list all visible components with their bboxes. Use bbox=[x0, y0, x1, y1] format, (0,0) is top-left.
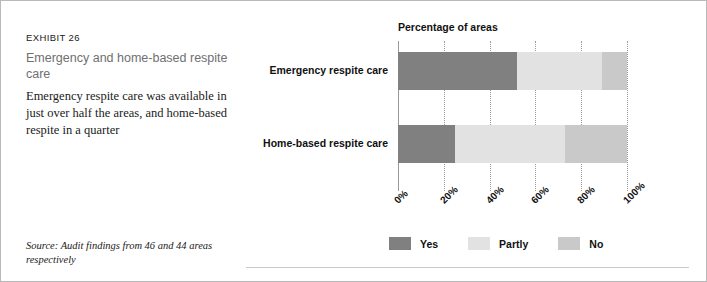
source-note: Source: Audit findings from 46 and 44 ar… bbox=[26, 239, 241, 267]
legend-swatch bbox=[468, 237, 490, 250]
legend-label: Partly bbox=[499, 238, 528, 250]
bar-segment-no bbox=[565, 125, 627, 163]
bar-segment-yes bbox=[398, 52, 517, 90]
frame-border-top bbox=[0, 0, 707, 1]
exhibit-title: Emergency and home-based respite care bbox=[26, 50, 236, 82]
bar-segment-partly bbox=[517, 52, 602, 90]
bar-segment-yes bbox=[398, 125, 455, 163]
legend-item: No bbox=[558, 237, 603, 250]
category-label: Emergency respite care bbox=[270, 64, 388, 76]
bottom-divider bbox=[246, 267, 689, 268]
stacked-bar bbox=[398, 125, 627, 163]
frame-border-left bbox=[0, 0, 1, 282]
exhibit-description: Emergency respite care was available in … bbox=[26, 88, 238, 139]
chart-title: Percentage of areas bbox=[398, 21, 498, 33]
legend-label: No bbox=[589, 238, 603, 250]
category-label: Home-based respite care bbox=[263, 137, 388, 149]
legend-swatch bbox=[389, 237, 411, 250]
chart-legend: YesPartlyNo bbox=[389, 237, 633, 250]
exhibit-page: EXHIBIT 26 Emergency and home-based resp… bbox=[0, 0, 707, 282]
gridline bbox=[627, 41, 629, 191]
exhibit-number: EXHIBIT 26 bbox=[26, 32, 80, 43]
bar-segment-no bbox=[602, 52, 627, 90]
legend-item: Yes bbox=[389, 237, 438, 250]
bar-segment-partly bbox=[455, 125, 565, 163]
chart-plot-area bbox=[398, 41, 627, 191]
legend-swatch bbox=[558, 237, 580, 250]
legend-label: Yes bbox=[420, 238, 438, 250]
stacked-bar bbox=[398, 52, 627, 90]
legend-item: Partly bbox=[468, 237, 528, 250]
